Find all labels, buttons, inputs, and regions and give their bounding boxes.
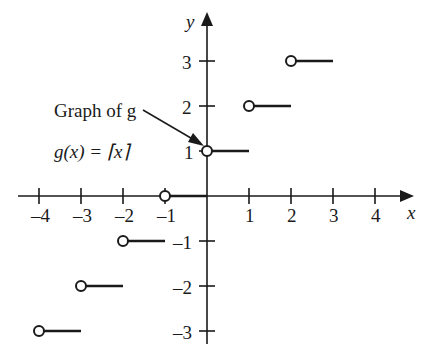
x-axis-arrowhead [400,190,414,202]
y-tick-label-3: 3 [182,53,192,72]
x-tick-label-neg2: –2 [115,206,134,225]
y-axis-arrowhead [201,12,213,26]
x-tick-label-neg1: –1 [157,206,176,225]
x-axis-label: x [407,203,415,222]
x-tick-label-1: 1 [245,206,255,225]
open-circle-2-3 [286,56,296,66]
open-circle-neg2-neg1 [118,236,128,246]
y-tick-label-neg1: –1 [173,233,192,252]
graph-of-g-label: Graph of g [54,101,136,120]
x-tick-label-neg3: –3 [73,206,92,225]
open-circle-neg4-neg3 [34,326,44,336]
open-circle-neg3-neg2 [76,281,86,291]
y-tick-label-1: 1 [184,143,194,162]
y-tick-label-neg3: –3 [173,323,192,342]
x-tick-label-neg4: –4 [31,206,50,225]
ceiling-function-figure: –4 –3 –2 –1 1 2 3 4 3 2 1 –1 –2 –3 x y G… [0,0,426,352]
x-tick-label-4: 4 [371,206,381,225]
x-tick-label-2: 2 [287,206,297,225]
open-circle-0-1 [202,146,212,156]
y-tick-label-2: 2 [182,98,192,117]
open-circle-1-2 [244,101,254,111]
annotation-arrow [143,110,204,146]
x-axis [18,190,414,202]
graph-canvas [0,0,426,352]
open-circle-neg1-0 [160,191,170,201]
y-tick-label-neg2: –2 [173,278,192,297]
x-tick-label-3: 3 [329,206,339,225]
ceiling-formula-label: g(x) = ⌈x⌉ [54,142,129,161]
y-axis-label: y [186,12,194,31]
